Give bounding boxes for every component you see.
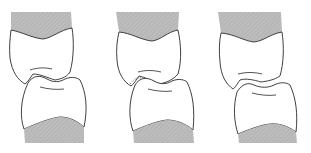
panel-right [218, 12, 297, 143]
dental-occlusion-diagram [0, 0, 311, 153]
panel-middle [116, 12, 194, 143]
panel-left [10, 12, 86, 143]
